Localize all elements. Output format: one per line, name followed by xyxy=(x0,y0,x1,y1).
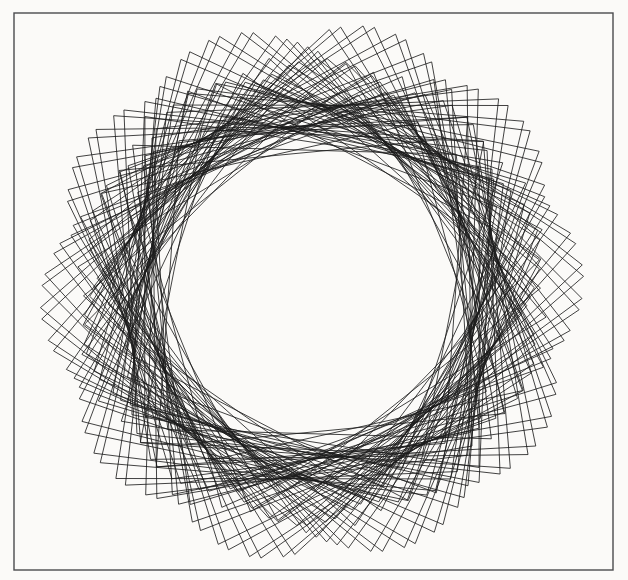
spirograph-figure xyxy=(0,0,628,580)
artboard xyxy=(0,0,628,580)
